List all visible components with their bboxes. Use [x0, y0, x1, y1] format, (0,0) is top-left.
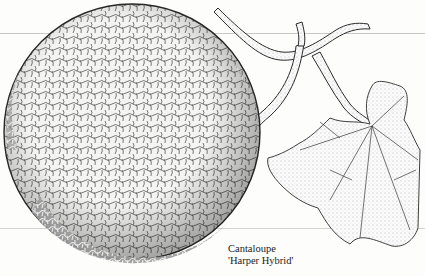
- caption-variety: 'Harper Hybrid': [228, 255, 293, 267]
- cantaloupe-fruit: [4, 4, 260, 263]
- cantaloupe-drawing: [0, 0, 425, 276]
- illustration-canvas: Cantaloupe 'Harper Hybrid': [0, 0, 425, 276]
- caption: Cantaloupe 'Harper Hybrid': [228, 243, 293, 267]
- caption-title: Cantaloupe: [228, 243, 293, 255]
